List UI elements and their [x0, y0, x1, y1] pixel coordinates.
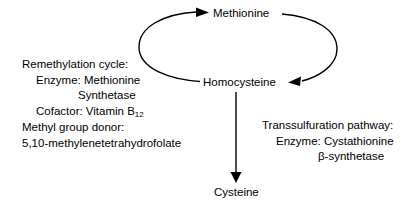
node-label-homocysteine: Homocysteine: [200, 76, 279, 89]
annotation-remethylation: Remethylation cycle: Enzyme: Methionine …: [22, 57, 181, 151]
transsulfuration-heading: Transsulfuration pathway:: [262, 118, 394, 134]
remethylation-donor-heading: Methyl group donor:: [22, 120, 181, 136]
remethylation-cofactor-text: Cofactor: Vitamin B: [36, 105, 135, 117]
annotation-transsulfuration: Transsulfuration pathway: Enzyme: Cystat…: [262, 118, 394, 165]
remethylation-arrowhead: [196, 8, 209, 18]
transmethylation-arc-path: [282, 14, 337, 81]
remethylation-cofactor-subscript: 12: [135, 110, 144, 119]
node-label-methionine: Methionine: [210, 7, 272, 20]
transsulfuration-enzyme: Enzyme: Cystathionine: [262, 134, 394, 150]
remethylation-heading: Remethylation cycle:: [22, 57, 181, 73]
remethylation-enzyme: Enzyme: Methionine: [22, 73, 181, 89]
remethylation-enzyme-continued: Synthetase: [22, 88, 181, 104]
remethylation-donor-value: 5,10-methylenetetrahydrofolate: [22, 136, 181, 152]
node-label-cysteine: Cysteine: [211, 186, 262, 199]
remethylation-cofactor: Cofactor: Vitamin B12: [22, 104, 181, 121]
transsulfuration-enzyme-continued: β-synthetase: [262, 149, 394, 165]
transsulfuration-arrowhead: [231, 172, 242, 183]
diagram-canvas: Methionine Homocysteine Cysteine Remethy…: [0, 0, 420, 208]
transmethylation-arrowhead: [288, 77, 301, 87]
